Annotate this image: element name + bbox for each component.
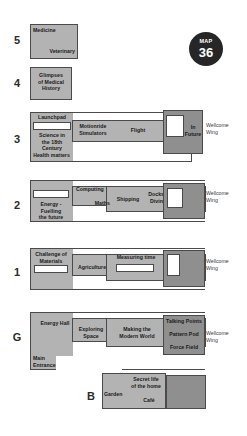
level-2-wing-void bbox=[167, 188, 183, 208]
gallery-in-future[interactable]: In Future bbox=[184, 124, 202, 137]
gallery-main-entrance[interactable]: Main Entrance bbox=[33, 355, 77, 368]
gallery-computing[interactable]: Computing bbox=[76, 186, 116, 193]
gallery-cafe[interactable]: Café bbox=[135, 397, 163, 404]
level-number-B: B bbox=[84, 391, 98, 402]
gallery-glimpses-of-medical-history[interactable]: Glimpses of Medical History bbox=[30, 72, 72, 92]
level-1-wellcome-wing-label: Wellcome Wing bbox=[206, 258, 246, 272]
level-3-wellcome-wing-label: Wellcome Wing bbox=[206, 122, 246, 136]
gallery-medicine[interactable]: Medicine bbox=[33, 27, 77, 34]
gallery-challenge-of-materials[interactable]: Challenge of Materials bbox=[30, 251, 72, 264]
level-2-energy-void bbox=[33, 190, 69, 198]
level-3-wing-void bbox=[166, 115, 184, 137]
level-G-wellcome-wing-label: Wellcome Wing bbox=[206, 330, 246, 344]
gallery-energy-hall[interactable]: Energy Hall bbox=[31, 320, 79, 327]
level-3-launchpad-void bbox=[33, 122, 71, 130]
gallery-pattern-pod[interactable]: Pattern Pod bbox=[164, 331, 204, 338]
gallery-veterinary[interactable]: Veterinary bbox=[33, 48, 75, 55]
level-1-materials-void bbox=[34, 265, 68, 273]
level-1-measuring-time-void bbox=[116, 264, 154, 272]
gallery-health-matters[interactable]: Health matters bbox=[30, 152, 73, 159]
gallery-agriculture[interactable]: Agriculture bbox=[74, 264, 110, 271]
gallery-measuring-time[interactable]: Measuring time bbox=[112, 254, 160, 261]
level-number-3: 3 bbox=[10, 134, 24, 145]
gallery-motionride-simulators[interactable]: Motionride Simulators bbox=[73, 123, 113, 136]
museum-floor-map: MAP 36 5 Medicine Veterinary 4 Glimpses … bbox=[0, 0, 247, 436]
gallery-making-the-modern-world[interactable]: Making the Modern World bbox=[112, 326, 162, 339]
level-number-G: G bbox=[10, 332, 24, 343]
gallery-talking-points[interactable]: Talking Points bbox=[164, 318, 204, 325]
gallery-garden[interactable]: Garden bbox=[104, 391, 138, 398]
level-number-4: 4 bbox=[10, 78, 24, 89]
gallery-exploring-space[interactable]: Exploring Space bbox=[74, 326, 108, 339]
level-number-1: 1 bbox=[10, 267, 24, 278]
gallery-secret-life-of-the-home[interactable]: Secret life of the home bbox=[124, 376, 168, 389]
level-number-2: 2 bbox=[10, 200, 24, 211]
level-1-wing-void bbox=[167, 254, 180, 276]
gallery-shipping[interactable]: Shipping bbox=[112, 196, 144, 203]
level-number-5: 5 bbox=[10, 35, 24, 46]
gallery-launchpad[interactable]: Launchpad bbox=[31, 114, 73, 121]
level-2-wellcome-wing-label: Wellcome Wing bbox=[206, 190, 246, 204]
level-B-right-block bbox=[166, 375, 206, 409]
gallery-energy-fuelling-the-future[interactable]: Energy - Fuelling the future bbox=[30, 201, 72, 221]
map-number-badge: MAP 36 bbox=[189, 32, 223, 66]
gallery-force-field[interactable]: Force Field bbox=[164, 344, 204, 351]
map-badge-word: MAP bbox=[199, 39, 212, 45]
gallery-science-in-the-18th-century[interactable]: Science in the 18th Century bbox=[31, 132, 73, 152]
gallery-flight[interactable]: Flight bbox=[118, 127, 158, 134]
gallery-maths[interactable]: Maths bbox=[76, 200, 110, 207]
map-badge-number: 36 bbox=[199, 46, 213, 59]
